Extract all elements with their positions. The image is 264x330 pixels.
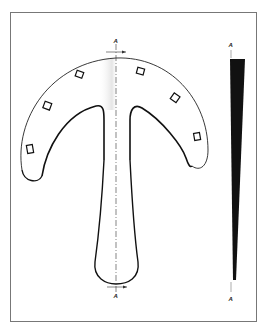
top-arrow-head-icon	[122, 51, 126, 54]
label-top-profile: A	[228, 42, 233, 48]
hole-3	[75, 70, 84, 78]
inner-left-curve	[42, 106, 104, 176]
shading-band	[98, 58, 118, 110]
label-bottom-profile: A	[228, 296, 233, 302]
anchor-diagram: A A A A	[0, 0, 264, 330]
cross-section-profile	[230, 59, 245, 280]
left-arm-tip	[22, 170, 42, 181]
hole-4	[136, 67, 144, 75]
label-bottom-main: A	[113, 293, 118, 299]
bottom-arrow-head-icon	[123, 286, 127, 289]
inner-right-curve	[130, 106, 192, 166]
label-top-main: A	[113, 38, 118, 44]
hole-5	[170, 93, 180, 103]
hole-1	[26, 145, 33, 154]
hole-6	[194, 133, 201, 141]
shank-outline	[95, 160, 138, 284]
hole-2	[43, 101, 52, 110]
